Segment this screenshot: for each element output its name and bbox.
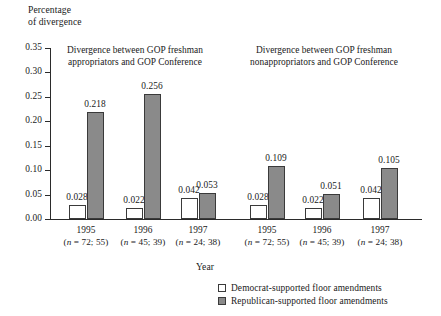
panel-title-appropriators: Divergence between GOP freshman appropri… (52, 44, 218, 68)
x-sample-size-note: (n = 24; 38) (340, 236, 420, 248)
y-tick-mark (45, 72, 50, 73)
y-tick-label: 0.20 (0, 116, 42, 125)
divergence-bar-chart: Percentage of divergence 0.000.050.100.1… (0, 0, 441, 316)
y-tick-mark (45, 170, 50, 171)
x-group-label-1997: 1997(n = 24; 38) (340, 224, 420, 249)
x-sample-size-note: (n = 24; 38) (158, 236, 238, 248)
legend-item: Democrat-supported floor amendments (218, 281, 388, 294)
x-axis-title: Year (196, 262, 214, 272)
legend-swatch-dem (218, 284, 226, 292)
bar-republican-1995-panel2 (268, 166, 285, 219)
bar-republican-1996-panel2 (323, 194, 340, 219)
y-tick-mark (45, 146, 50, 147)
bar-republican-1997-panel2 (381, 168, 398, 219)
x-group-label-1997: 1997(n = 24; 38) (158, 224, 238, 249)
bar-value-label: 0.256 (135, 82, 169, 91)
bar-value-label: 0.053 (190, 181, 224, 190)
y-tick-mark (45, 97, 50, 98)
y-tick-mark (45, 195, 50, 196)
y-tick-label: 0.30 (0, 67, 42, 76)
y-tick-label: 0.10 (0, 165, 42, 174)
bar-democrat-1997-panel2 (363, 198, 380, 219)
x-year-label: 1997 (340, 224, 420, 236)
y-tick-label: 0.15 (0, 141, 42, 150)
bar-value-label: 0.105 (372, 156, 406, 165)
bar-democrat-1995-panel2 (250, 205, 267, 219)
bar-value-label: 0.218 (78, 100, 112, 109)
y-tick-mark (45, 219, 50, 220)
y-tick-label: 0.00 (0, 214, 42, 223)
y-tick-mark (45, 48, 50, 49)
bar-republican-1997-panel1 (199, 193, 216, 219)
legend-swatch-rep (218, 297, 226, 305)
y-tick-label: 0.05 (0, 190, 42, 199)
bar-value-label: 0.109 (259, 154, 293, 163)
bar-democrat-1995-panel1 (69, 205, 86, 219)
y-tick-mark (45, 121, 50, 122)
bar-democrat-1997-panel1 (181, 198, 198, 219)
y-tick-label: 0.25 (0, 92, 42, 101)
x-axis-line (50, 219, 422, 220)
legend-label: Republican-supported floor amendments (231, 296, 388, 306)
bar-republican-1995-panel1 (87, 112, 104, 219)
y-axis-title: Percentage of divergence (28, 4, 82, 27)
legend-item: Republican-supported floor amendments (218, 294, 388, 307)
bar-democrat-1996-panel2 (305, 208, 322, 219)
chart-legend: Democrat-supported floor amendmentsRepub… (218, 281, 388, 307)
bar-republican-1996-panel1 (144, 94, 161, 219)
panel-title-nonappropriators: Divergence between GOP freshman nonappro… (228, 44, 420, 68)
bar-value-label: 0.051 (314, 182, 348, 191)
y-axis-line (50, 48, 51, 219)
y-tick-label: 0.35 (0, 43, 42, 52)
x-year-label: 1997 (158, 224, 238, 236)
legend-label: Democrat-supported floor amendments (231, 283, 382, 293)
bar-democrat-1996-panel1 (126, 208, 143, 219)
